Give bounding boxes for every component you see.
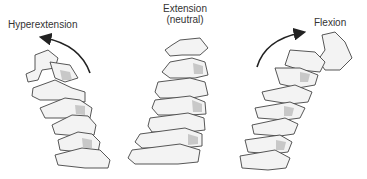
cervical-spine-illustration [0, 0, 367, 179]
flexion-spine [240, 32, 352, 170]
hyperextension-spine [26, 50, 110, 168]
extension-spine [128, 38, 208, 164]
